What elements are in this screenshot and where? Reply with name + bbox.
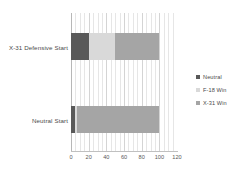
gridline bbox=[168, 13, 169, 151]
x-axis-tick-label: 0 bbox=[69, 154, 72, 160]
x-axis-tick-labels: 020406080100120 bbox=[71, 154, 178, 166]
x-axis-tick-label: 60 bbox=[121, 154, 127, 160]
bar-segment-neutral bbox=[71, 33, 89, 60]
gridline bbox=[173, 13, 174, 151]
x-axis-tick-label: 80 bbox=[139, 154, 145, 160]
bar-row bbox=[71, 33, 159, 60]
x-axis-line bbox=[71, 151, 178, 152]
gridline bbox=[159, 13, 160, 151]
legend-label: Neutral bbox=[203, 74, 222, 80]
legend-swatch-icon bbox=[196, 101, 200, 105]
bar-segment-x-31-win bbox=[115, 33, 159, 60]
x-axis-tick-label: 40 bbox=[103, 154, 109, 160]
legend-item-neutral: Neutral bbox=[196, 71, 250, 82]
legend-swatch-icon bbox=[196, 75, 200, 79]
x-axis-tick-label: 20 bbox=[86, 154, 92, 160]
bar-segment-x-31-win bbox=[77, 106, 159, 133]
legend-swatch-icon bbox=[196, 88, 200, 92]
gridline bbox=[164, 13, 165, 151]
x-axis-tick-label: 120 bbox=[172, 154, 181, 160]
chart-legend: NeutralF-18 WinX-31 Win bbox=[196, 71, 250, 110]
stacked-bar-chart: X-31 Defensive Start Neutral Start 02040… bbox=[0, 0, 252, 176]
x-axis-tick-label: 100 bbox=[155, 154, 164, 160]
legend-item-x-31-win: X-31 Win bbox=[196, 97, 250, 108]
bar-segment-f-18-win bbox=[89, 33, 116, 60]
category-label-neutral-start: Neutral Start bbox=[0, 117, 68, 124]
legend-item-f-18-win: F-18 Win bbox=[196, 84, 250, 95]
legend-label: X-31 Win bbox=[203, 100, 227, 106]
legend-label: F-18 Win bbox=[203, 87, 227, 93]
bar-row bbox=[71, 106, 159, 133]
category-label-x31-defensive-start: X-31 Defensive Start bbox=[0, 44, 68, 51]
